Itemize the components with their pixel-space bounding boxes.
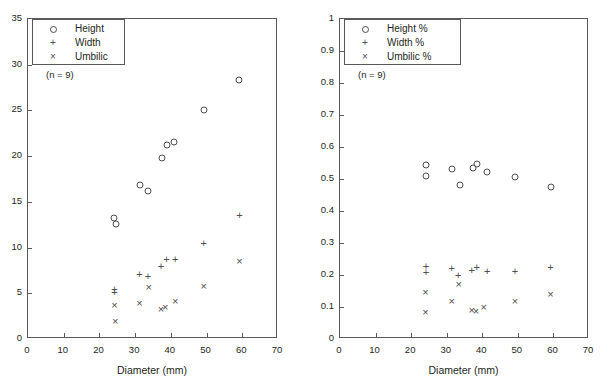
legend-row: Height % (345, 22, 460, 35)
x-axis-tick (64, 333, 65, 337)
data-point-cross: × (454, 280, 463, 289)
x-axis-tick-label: 60 (537, 345, 567, 355)
data-point-circle (484, 168, 491, 175)
legend-label: Height (75, 22, 104, 35)
legend-row: ×Umbilic % (345, 50, 460, 63)
data-point-circle (112, 220, 119, 227)
data-point-plus: + (135, 270, 144, 279)
data-point-circle (236, 77, 243, 84)
data-point-cross: × (161, 303, 170, 312)
data-point-plus: + (156, 261, 165, 270)
x-axis-tick-label: 70 (573, 345, 603, 355)
data-point-plus: + (546, 263, 555, 272)
legend-label: Umbilic (75, 50, 108, 63)
data-point-cross: × (479, 303, 488, 312)
chart-panel-right: +++++++++××××××××× 00.10.20.30.40.50.60.… (306, 0, 613, 382)
y-axis-tick (28, 156, 32, 157)
data-point-plus: + (235, 210, 244, 219)
data-point-plus: + (199, 239, 208, 248)
y-axis-tick-label: 10 (0, 242, 22, 252)
y-axis-tick-label: 0.6 (306, 141, 334, 151)
data-point-circle (158, 154, 165, 161)
data-point-plus: + (447, 264, 456, 273)
y-axis-tick-label: 0.1 (306, 301, 334, 311)
data-point-cross: × (467, 306, 476, 315)
data-point-cross: × (471, 306, 480, 315)
data-point-plus: + (467, 265, 476, 274)
legend-label: Width (75, 36, 101, 49)
y-axis-tick-label: 15 (0, 196, 22, 206)
legend-marker-plus-icon: + (355, 36, 375, 49)
legend-row: Height (33, 22, 124, 35)
plot-area-left: +++++++++××××××××× (28, 19, 276, 337)
legend-row: +Width % (345, 36, 460, 49)
legend-right: Height %+Width %×Umbilic % (344, 19, 461, 65)
data-point-plus: + (110, 284, 119, 293)
data-point-circle (423, 161, 430, 168)
x-axis-tick-label: 10 (48, 345, 78, 355)
x-axis-tick-label: 40 (466, 345, 496, 355)
y-axis-tick (340, 307, 344, 308)
legend-marker-circle-icon (355, 22, 375, 35)
y-axis-tick-label: 20 (0, 150, 22, 160)
data-point-circle (163, 142, 170, 149)
legend-row: ×Umbilic (33, 50, 124, 63)
x-axis-tick-label: 20 (83, 345, 113, 355)
x-axis-tick (411, 333, 412, 337)
x-axis-tick (99, 333, 100, 337)
data-point-cross: × (144, 282, 153, 291)
x-axis-tick-label: 20 (395, 345, 425, 355)
y-axis-tick-label: 0.3 (306, 237, 334, 247)
plot-area-right: +++++++++××××××××× (340, 19, 587, 337)
data-point-cross: × (511, 296, 520, 305)
y-axis-tick (28, 110, 32, 111)
y-axis-tick (28, 202, 32, 203)
y-axis-tick-label: 35 (0, 13, 22, 23)
x-axis-tick-label: 50 (502, 345, 532, 355)
x-axis-tick-label: 10 (360, 345, 390, 355)
data-point-circle (512, 174, 519, 181)
y-axis-tick-label: 30 (0, 59, 22, 69)
data-point-cross: × (135, 299, 144, 308)
data-point-cross: × (421, 308, 430, 317)
data-point-cross: × (111, 316, 120, 325)
legend-marker-circle-icon (43, 22, 63, 35)
x-axis-tick-label: 0 (324, 345, 354, 355)
y-axis-tick (340, 211, 344, 212)
chart-panel-left: +++++++++××××××××× 051015202530350102030… (0, 0, 307, 382)
circle-icon (362, 26, 369, 33)
data-point-plus: + (472, 263, 481, 272)
y-axis-tick-label: 1 (306, 13, 334, 23)
sample-size-note-right: (n = 9) (358, 69, 386, 80)
data-point-circle (110, 215, 117, 222)
x-axis-tick-label: 40 (155, 345, 185, 355)
y-axis-tick (340, 115, 344, 116)
legend-marker-cross-icon: × (43, 50, 63, 63)
x-axis-title-right: Diameter (mm) (339, 364, 588, 376)
circle-icon (50, 26, 57, 33)
data-point-plus: + (454, 270, 463, 279)
data-point-plus: + (110, 288, 119, 297)
sample-size-note-left: (n = 9) (46, 69, 74, 80)
data-point-plus: + (511, 267, 520, 276)
y-axis-tick-label: 0.8 (306, 77, 334, 87)
plot-frame-right: +++++++++××××××××× (339, 18, 588, 338)
data-point-plus: + (483, 267, 492, 276)
data-point-cross: × (156, 304, 165, 313)
y-axis-tick-label: 0.4 (306, 205, 334, 215)
plot-frame-left: +++++++++××××××××× (27, 18, 277, 338)
x-axis-tick (135, 333, 136, 337)
legend-marker-plus-icon: + (43, 36, 63, 49)
x-axis-title-left: Diameter (mm) (27, 364, 277, 376)
y-axis-tick (340, 275, 344, 276)
x-axis-tick (518, 333, 519, 337)
data-point-cross: × (546, 289, 555, 298)
data-point-plus: + (422, 262, 431, 271)
y-axis-tick (340, 179, 344, 180)
y-axis-tick-label: 0 (306, 333, 334, 343)
data-point-cross: × (171, 296, 180, 305)
figure-two-scatter-panels: +++++++++××××××××× 051015202530350102030… (0, 0, 613, 382)
data-point-circle (423, 172, 430, 179)
data-point-plus: + (422, 268, 431, 277)
y-axis-tick-label: 0.2 (306, 269, 334, 279)
